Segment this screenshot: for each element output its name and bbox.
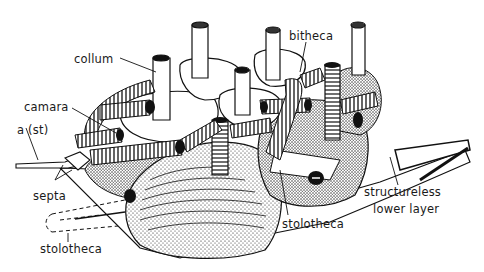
label-lower-layer: lower layer [373, 203, 439, 215]
stolon-a-st [16, 152, 90, 170]
label-camara: camara [24, 101, 69, 113]
label-stolotheca-left: stolotheca [40, 243, 102, 255]
label-stolotheca-right: stolotheca [282, 218, 344, 230]
label-bitheca: bitheca [289, 30, 333, 42]
diagram-figure: collum camara a (st) septa stolotheca bi… [0, 0, 484, 272]
label-collum: collum [74, 53, 113, 65]
label-septa: septa [33, 190, 66, 202]
label-a-st: a (st) [17, 124, 48, 136]
label-structureless: structureless [364, 186, 441, 198]
graptolite-illustration [0, 0, 484, 272]
